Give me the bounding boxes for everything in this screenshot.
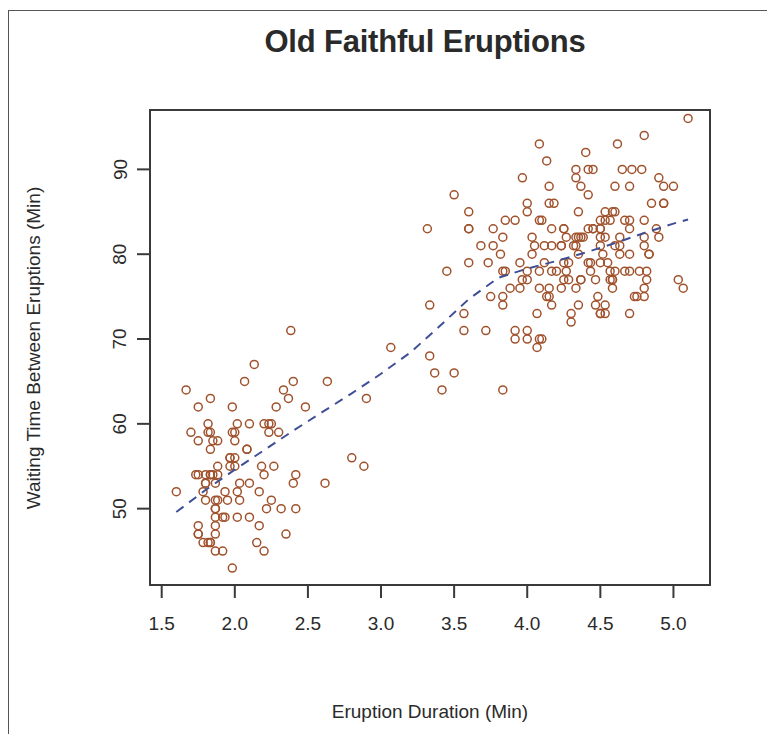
data-point xyxy=(450,191,458,199)
data-point xyxy=(577,276,585,284)
data-point xyxy=(209,437,217,445)
data-point xyxy=(523,199,531,207)
data-point xyxy=(236,496,244,504)
data-point xyxy=(465,259,473,267)
x-tick-label: 1.5 xyxy=(148,613,174,634)
data-point xyxy=(640,216,648,224)
y-tick-label: 80 xyxy=(110,244,131,265)
data-point xyxy=(645,250,653,258)
data-point xyxy=(204,420,212,428)
data-point xyxy=(255,522,263,530)
data-point xyxy=(265,428,273,436)
data-point xyxy=(640,284,648,292)
data-point xyxy=(523,327,531,335)
data-point xyxy=(250,360,258,368)
y-tick-label: 90 xyxy=(110,159,131,180)
scatter-plot-svg: Old Faithful Eruptions 1.52.02.53.03.54.… xyxy=(0,0,768,743)
y-tick-label: 60 xyxy=(110,413,131,434)
data-point xyxy=(679,284,687,292)
data-point xyxy=(518,276,526,284)
data-point xyxy=(460,327,468,335)
data-point xyxy=(567,318,575,326)
data-point xyxy=(282,530,290,538)
x-tick-label: 3.5 xyxy=(441,613,467,634)
data-point xyxy=(535,267,543,275)
data-point xyxy=(516,259,524,267)
data-point xyxy=(194,530,202,538)
data-point xyxy=(279,386,287,394)
x-tick-label: 4.5 xyxy=(587,613,613,634)
data-point xyxy=(202,496,210,504)
data-point xyxy=(443,267,451,275)
data-point xyxy=(528,250,536,258)
data-point xyxy=(263,505,271,513)
data-point xyxy=(321,479,329,487)
y-axis-title: Waiting Time Between Eruptions (Min) xyxy=(23,187,44,509)
data-point xyxy=(584,191,592,199)
data-point xyxy=(565,259,573,267)
data-point xyxy=(640,242,648,250)
data-point xyxy=(523,335,531,343)
x-tick-label: 2.5 xyxy=(295,613,321,634)
data-point xyxy=(655,174,663,182)
data-point xyxy=(499,386,507,394)
data-point xyxy=(194,403,202,411)
data-point xyxy=(511,216,519,224)
data-point xyxy=(241,377,249,385)
y-axis-ticks: 5060708090 xyxy=(110,159,151,519)
data-point xyxy=(574,208,582,216)
data-point xyxy=(511,335,519,343)
data-point xyxy=(516,284,524,292)
data-point xyxy=(613,140,621,148)
data-point xyxy=(577,182,585,190)
data-point xyxy=(626,182,634,190)
data-point xyxy=(684,114,692,122)
data-point xyxy=(289,377,297,385)
data-point xyxy=(231,454,239,462)
data-point xyxy=(228,564,236,572)
data-point xyxy=(228,403,236,411)
data-point xyxy=(348,454,356,462)
data-point xyxy=(194,522,202,530)
data-point xyxy=(518,174,526,182)
data-point xyxy=(187,428,195,436)
data-point xyxy=(626,310,634,318)
data-point xyxy=(592,301,600,309)
data-point xyxy=(233,513,241,521)
data-point xyxy=(245,420,253,428)
data-point xyxy=(243,445,251,453)
data-point xyxy=(638,165,646,173)
data-point xyxy=(596,310,604,318)
data-point xyxy=(562,233,570,241)
data-point xyxy=(523,208,531,216)
data-point xyxy=(323,377,331,385)
data-point xyxy=(531,242,539,250)
data-point xyxy=(572,165,580,173)
data-point xyxy=(594,293,602,301)
data-point xyxy=(275,428,283,436)
x-axis-ticks: 1.52.02.53.03.54.04.55.0 xyxy=(148,585,686,634)
data-point xyxy=(287,327,295,335)
x-tick-label: 5.0 xyxy=(660,613,686,634)
data-point xyxy=(557,284,565,292)
data-point xyxy=(601,233,609,241)
data-point xyxy=(535,284,543,292)
data-point xyxy=(674,276,682,284)
data-point xyxy=(465,225,473,233)
data-point xyxy=(194,437,202,445)
data-point xyxy=(567,310,575,318)
data-point xyxy=(574,301,582,309)
data-point xyxy=(223,496,231,504)
data-point xyxy=(260,547,268,555)
data-point xyxy=(499,293,507,301)
data-point xyxy=(533,310,541,318)
data-point xyxy=(260,471,268,479)
data-point xyxy=(608,284,616,292)
data-point xyxy=(550,199,558,207)
data-point xyxy=(431,369,439,377)
y-tick-label: 50 xyxy=(110,498,131,519)
data-point xyxy=(618,165,626,173)
data-point xyxy=(535,140,543,148)
data-point xyxy=(548,225,556,233)
data-point xyxy=(592,276,600,284)
